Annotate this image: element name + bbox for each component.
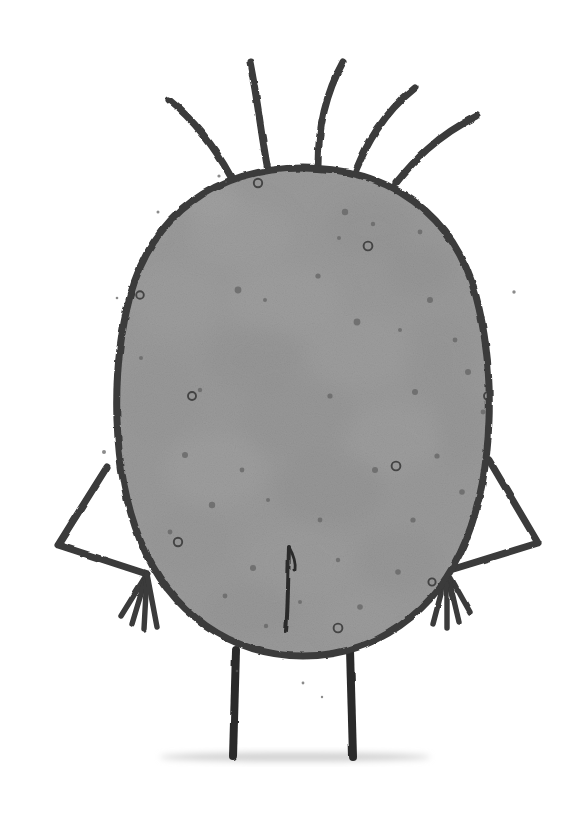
speckle-dot-15 <box>465 369 471 375</box>
blob-creature-drawing <box>0 0 578 814</box>
speckle-dot-35 <box>357 604 363 610</box>
speckle-dot-25 <box>209 502 215 508</box>
ink-fleck-3 <box>157 211 160 214</box>
ground-shadow <box>160 753 430 762</box>
speckle-dot-33 <box>223 594 228 599</box>
speckle-dot-18 <box>327 393 332 398</box>
speckle-dot-8 <box>427 297 433 303</box>
speckle-dot-22 <box>372 467 378 473</box>
ink-fleck-9 <box>236 670 239 673</box>
speckle-dot-2 <box>371 222 375 226</box>
speckle-dot-20 <box>182 452 188 458</box>
illustration-canvas <box>0 0 578 814</box>
speckle-dot-27 <box>318 518 323 523</box>
speckle-dot-26 <box>266 498 270 502</box>
speckle-dot-17 <box>412 389 418 395</box>
speckle-dot-6 <box>235 287 242 294</box>
speckle-dot-40 <box>139 356 143 360</box>
speckle-dot-3 <box>337 236 341 240</box>
speckle-dot-13 <box>315 273 320 278</box>
speckle-dot-29 <box>168 530 173 535</box>
speckle-dot-31 <box>336 558 340 562</box>
ink-fleck-2 <box>225 181 227 183</box>
speckle-dot-5 <box>418 230 423 235</box>
ink-fleck-4 <box>116 297 119 300</box>
ink-fleck-7 <box>302 682 305 685</box>
speckle-dot-28 <box>410 517 415 522</box>
speckle-dot-14 <box>453 338 458 343</box>
right-leg <box>350 650 353 757</box>
speckle-dot-1 <box>342 209 348 215</box>
speckle-dot-16 <box>198 388 202 392</box>
speckle-dot-12 <box>398 328 402 332</box>
ink-fleck-6 <box>512 290 515 293</box>
speckle-dot-36 <box>264 624 268 628</box>
speckle-dot-7 <box>263 298 267 302</box>
ink-fleck-5 <box>102 450 106 454</box>
ink-fleck-1 <box>217 174 220 177</box>
speckle-dot-30 <box>250 565 256 571</box>
speckle-dot-21 <box>240 468 245 473</box>
speckle-dot-24 <box>459 489 465 495</box>
speckle-dot-19 <box>481 410 486 415</box>
speckle-dot-34 <box>298 600 302 604</box>
speckle-dot-32 <box>395 569 401 575</box>
left-leg <box>233 650 236 757</box>
speckle-dot-23 <box>434 453 439 458</box>
ink-fleck-8 <box>321 696 323 698</box>
speckle-dot-11 <box>354 319 361 326</box>
